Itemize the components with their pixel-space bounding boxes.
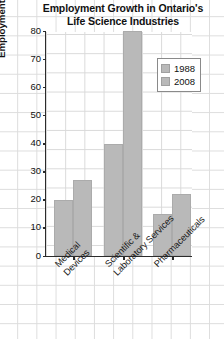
legend-label: 1988 xyxy=(174,63,195,74)
chart-title: Employment Growth in Ontario's Life Scie… xyxy=(28,2,218,27)
y-tick-label: 50 xyxy=(30,109,41,121)
legend-swatch-icon xyxy=(161,77,170,86)
chart-title-line-2: Life Science Industries xyxy=(28,15,218,28)
bar-group xyxy=(54,32,92,256)
y-tick-label: 40 xyxy=(30,137,41,149)
y-tick-label: 0 xyxy=(36,250,41,262)
legend-swatch-icon xyxy=(161,64,170,73)
y-tick-label: 10 xyxy=(30,221,41,233)
y-tick-label: 30 xyxy=(30,165,41,177)
bar-2008[interactable] xyxy=(123,31,142,256)
bar-chart-figure: Employment Growth in Ontario's Life Scie… xyxy=(0,0,224,339)
legend-label: 2008 xyxy=(174,76,195,87)
y-tick-label: 70 xyxy=(30,53,41,65)
legend-item[interactable]: 2008 xyxy=(161,75,195,88)
y-axis-title: Employment (1000s) xyxy=(0,0,7,58)
y-tick-label: 80 xyxy=(30,25,41,37)
bar-1988[interactable] xyxy=(104,144,123,257)
y-tick-label: 60 xyxy=(30,81,41,93)
chart-title-line-1: Employment Growth in Ontario's xyxy=(28,2,218,15)
chart-legend: 19882008 xyxy=(157,58,201,92)
x-axis-labels: MedicalDevicesScientific &Laboratory Ser… xyxy=(45,258,224,339)
bar-group xyxy=(104,32,142,256)
y-tick-label: 20 xyxy=(30,193,41,205)
legend-item[interactable]: 1988 xyxy=(161,62,195,75)
